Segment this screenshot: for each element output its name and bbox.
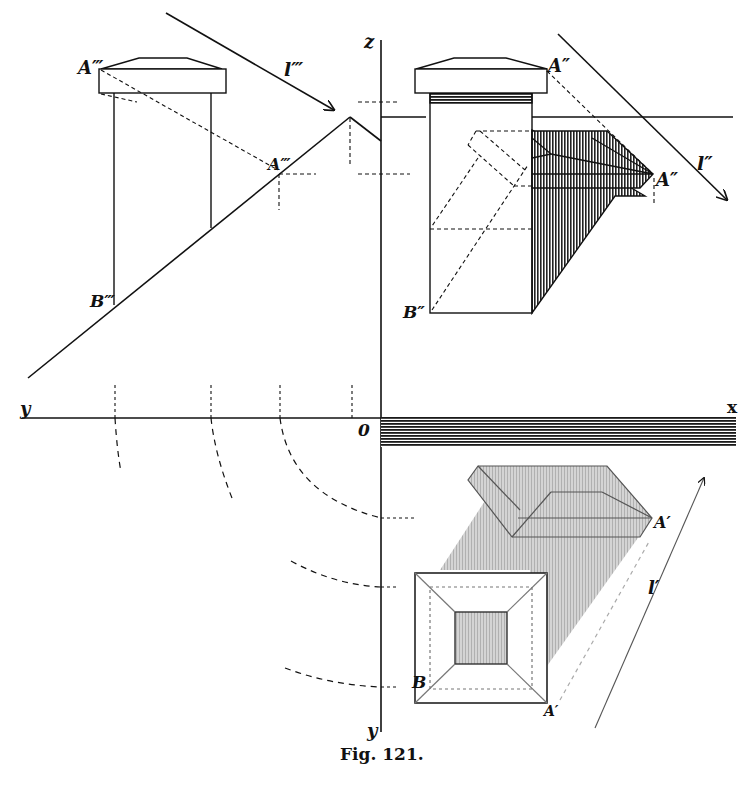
side-cap-top: [101, 58, 222, 69]
ground-line-shadow-band: [381, 417, 736, 447]
label-B-side: B‴: [89, 291, 115, 311]
front-pillar: [430, 93, 532, 313]
side-roof-right: [350, 117, 381, 141]
front-cap: [415, 69, 547, 93]
transfer-arcs: [115, 418, 414, 687]
label-B-front: B″: [402, 302, 425, 322]
y-axis-label-left: y: [19, 398, 32, 419]
label-l-plan: l′: [648, 577, 660, 598]
plan-pillar-top: [455, 612, 507, 664]
z-axis-label: z: [363, 31, 375, 52]
figure-canvas: z y x 0 y A‴ l‴ A‴ B‴ A″ A″ l″ B″ A′ l′ …: [0, 0, 756, 785]
labels: z y x 0 y A‴ l‴ A‴ B‴ A″ A″ l″ B″ A′ l′ …: [19, 31, 738, 764]
label-A-side-shadow: A‴: [266, 155, 291, 174]
x-axis-label: x: [727, 397, 738, 417]
y-axis-label-bottom: y: [366, 720, 379, 741]
label-A-side: A‴: [76, 57, 104, 78]
front-pillar-under-cap-shade: [430, 93, 532, 103]
front-cap-top: [416, 58, 547, 69]
plan-view: [415, 466, 704, 728]
label-A-front: A″: [546, 55, 570, 76]
figure-caption: Fig. 121.: [340, 744, 424, 764]
side-roof-left: [28, 117, 350, 378]
side-cap: [99, 69, 226, 93]
label-B-plan: B: [411, 672, 426, 692]
axes: [22, 40, 736, 732]
label-A-plan: A′: [542, 703, 559, 719]
label-l-front: l″: [697, 152, 713, 174]
label-l-side: l‴: [284, 58, 303, 80]
origin-label: 0: [358, 420, 370, 440]
label-A-front-shadow: A″: [654, 169, 678, 190]
front-shadow-cap: [532, 131, 653, 188]
side-y-projection-ticks: [115, 385, 352, 418]
label-A-plan-shadow: A′: [652, 513, 671, 532]
